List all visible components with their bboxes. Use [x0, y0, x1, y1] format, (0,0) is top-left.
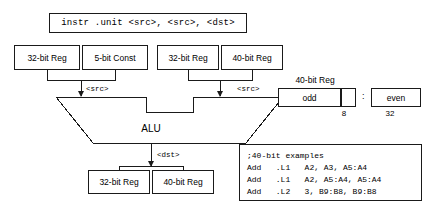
arrowhead-right-source	[217, 91, 223, 97]
register40-odd-highbits	[341, 88, 356, 107]
examples-line-2: Add .L1 A2, A5:A4, A5:A4	[247, 174, 421, 186]
register40-separator: :	[362, 92, 365, 101]
register40-even-field: even	[371, 88, 421, 107]
alu-shape	[56, 97, 283, 143]
source-box-40bit-reg: 40-bit Reg	[221, 45, 283, 70]
wire-left-source-bus	[47, 70, 115, 80]
examples-line-3: Add .L2 3, B9:B8, B9:B8	[247, 186, 421, 198]
register40-even-width: 32	[386, 110, 395, 118]
wire-right-source-bus	[188, 70, 252, 80]
arrowhead-left-source	[78, 91, 84, 97]
src-label-right: <src>	[237, 86, 260, 94]
block-diagram: instr .unit <src>, <src>, <dst> 32-bit R…	[0, 0, 426, 207]
source-box-5bit-const: 5-bit Const	[82, 45, 148, 70]
register40-odd-field: odd	[278, 88, 341, 107]
alu-label: ALU	[141, 124, 160, 134]
dest-box-40bit-reg: 40-bit Reg	[152, 170, 214, 194]
dst-label: <dst>	[157, 152, 180, 160]
examples-line-1: Add .L1 A2, A3, A5:A4	[247, 162, 421, 174]
src-label-left: <src>	[86, 86, 109, 94]
instruction-format-box: instr .unit <src>, <src>, <dst>	[49, 13, 247, 33]
register40-odd-width: 8	[342, 110, 346, 118]
dest-box-32bit-reg: 32-bit Reg	[88, 170, 150, 194]
examples-line-comment: ;40-bit examples	[247, 150, 421, 162]
register40-title: 40-bit Reg	[295, 76, 334, 85]
source-box-32bit-reg-2: 32-bit Reg	[157, 45, 219, 70]
source-box-32bit-reg: 32-bit Reg	[14, 45, 80, 70]
examples-box: ;40-bit examples Add .L1 A2, A3, A5:A4 A…	[239, 144, 422, 201]
